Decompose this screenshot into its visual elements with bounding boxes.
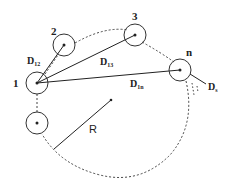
dashed-circumference: [75, 29, 128, 43]
dashed-marks: [192, 83, 198, 95]
center-point: [110, 99, 113, 102]
line-radius: [54, 100, 111, 149]
label-ds: Ds: [208, 81, 218, 93]
dashed-circumference: [45, 55, 58, 74]
line-ds: [190, 74, 206, 84]
conductor-2: [53, 34, 75, 56]
label-radius: R: [89, 123, 97, 135]
conductor-arrangement-diagram: 1 2 3 n D12 D13 D1n Ds R: [0, 0, 229, 182]
conductor-1: [26, 72, 48, 94]
label-node-n: n: [186, 46, 192, 58]
label-d1n: D1n: [130, 78, 144, 90]
label-node-3: 3: [132, 10, 138, 22]
dashed-circumference: [142, 42, 174, 62]
label-node-1: 1: [13, 77, 19, 89]
label-d12: D12: [27, 55, 40, 67]
conductor-unlabeled: [26, 112, 48, 134]
conductor-n: [169, 59, 191, 81]
line-d12: [37, 45, 64, 83]
label-node-2: 2: [51, 25, 57, 37]
conductor-3: [124, 24, 146, 46]
label-d13: D13: [100, 56, 113, 68]
dashed-circumference: [42, 81, 189, 178]
